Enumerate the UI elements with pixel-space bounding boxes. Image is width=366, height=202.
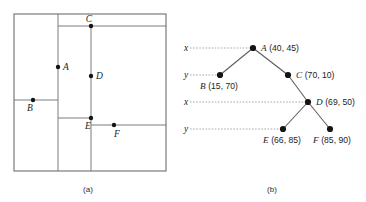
tree-node-label-b: B(15, 70) <box>200 81 238 91</box>
caption-panel-a: (a) <box>83 185 93 194</box>
tree-node-name-b: B <box>200 81 206 91</box>
figure-container: ABCDEF (a) xyxy A(40, 45)B(15, 70)C(70, … <box>0 0 366 202</box>
tree-node-label-e: E(66, 85) <box>262 135 301 145</box>
tree-node-b <box>217 72 223 78</box>
tree-node-coords-a: (40, 45) <box>269 43 299 53</box>
tree-node-coords-c: (70, 10) <box>305 70 335 80</box>
tree-axis-label-x-level-0: x <box>183 43 189 53</box>
tree-edge-a-b <box>220 48 253 75</box>
tree-node-a <box>250 45 256 51</box>
tree-node-e <box>280 126 286 132</box>
tree-node-name-e: E <box>262 135 269 145</box>
tree-node-c <box>285 72 291 78</box>
partition-point-f <box>112 123 116 127</box>
partition-point-label-c: C <box>86 14 93 24</box>
tree-node-d <box>305 99 311 105</box>
partition-split-lines <box>14 14 166 171</box>
partition-point-e <box>89 116 93 120</box>
panel-b-tree: xyxy A(40, 45)B(15, 70)C(70, 10)D(69, 50… <box>183 43 355 145</box>
partition-frame <box>14 14 166 171</box>
partition-point-label-f: F <box>113 129 120 139</box>
partition-points: ABCDEF <box>27 14 120 139</box>
tree-node-f <box>327 126 333 132</box>
tree-node-label-f: F(85, 90) <box>312 135 351 145</box>
tree-node-coords-b: (15, 70) <box>208 81 238 91</box>
partition-point-label-d: D <box>95 71 103 81</box>
tree-axis-labels: xyxy <box>183 43 189 134</box>
partition-point-a <box>56 65 60 69</box>
tree-nodes: A(40, 45)B(15, 70)C(70, 10)D(69, 50)E(66… <box>200 43 355 145</box>
tree-node-name-a: A <box>260 43 267 53</box>
partition-point-label-e: E <box>84 121 91 131</box>
partition-point-label-b: B <box>27 103 33 113</box>
tree-node-coords-d: (69, 50) <box>325 97 355 107</box>
panel-a-partition: ABCDEF <box>14 14 166 171</box>
tree-node-coords-e: (66, 85) <box>271 135 301 145</box>
tree-edge-d-e <box>283 102 308 129</box>
tree-node-name-f: F <box>312 135 319 145</box>
partition-point-c <box>89 24 93 28</box>
tree-node-name-d: D <box>315 97 323 107</box>
partition-point-d <box>89 74 93 78</box>
tree-axis-label-y-level-1: y <box>183 70 189 80</box>
tree-node-label-a: A(40, 45) <box>260 43 299 53</box>
partition-point-label-a: A <box>62 62 69 72</box>
tree-axis-label-x-level-2: x <box>183 97 189 107</box>
tree-axis-label-y-level-3: y <box>183 124 189 134</box>
tree-node-label-c: C(70, 10) <box>296 70 334 80</box>
partition-point-b <box>31 98 35 102</box>
caption-panel-b: (b) <box>267 185 277 194</box>
figure-svg: ABCDEF (a) xyxy A(40, 45)B(15, 70)C(70, … <box>0 0 366 202</box>
tree-node-coords-f: (85, 90) <box>321 135 351 145</box>
tree-node-label-d: D(69, 50) <box>315 97 355 107</box>
tree-node-name-c: C <box>296 70 303 80</box>
